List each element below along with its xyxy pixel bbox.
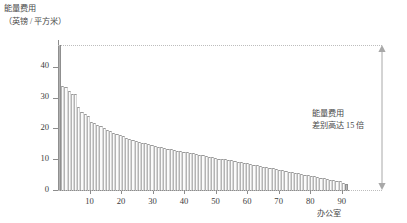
x-axis-tick-label: 70 bbox=[272, 196, 286, 206]
y-axis-tick-mark bbox=[53, 159, 58, 160]
y-axis-title: 能量费用 （英镑 / 平方米） bbox=[4, 3, 66, 28]
x-axis-title: 办公室 bbox=[317, 206, 341, 218]
range-annotation-line-1: 能量费用 bbox=[312, 108, 364, 120]
x-axis-tick-label: 20 bbox=[114, 196, 128, 206]
y-axis-tick-label: 10 bbox=[40, 153, 49, 163]
range-annotation: 能量费用 差别高达 15 倍 bbox=[312, 108, 364, 132]
y-axis-tick-mark bbox=[53, 67, 58, 68]
bar-series bbox=[58, 42, 348, 190]
y-axis-tick-mark bbox=[53, 98, 58, 99]
range-double-arrow-icon bbox=[375, 45, 389, 190]
y-axis-tick-label: 40 bbox=[40, 60, 49, 70]
x-axis-tick-label: 90 bbox=[335, 196, 349, 206]
x-axis-tick-label: 60 bbox=[240, 196, 254, 206]
y-axis-tick-label: 20 bbox=[40, 122, 49, 132]
y-axis-tick-label: 0 bbox=[45, 184, 49, 194]
plot-area bbox=[58, 42, 348, 190]
x-axis-tick-label: 40 bbox=[177, 196, 191, 206]
chart-container: 能量费用 （英镑 / 平方米） 010203040 10203040506070… bbox=[0, 0, 407, 223]
x-axis-tick-label: 10 bbox=[83, 196, 97, 206]
y-axis-title-line-2: （英镑 / 平方米） bbox=[4, 16, 66, 29]
y-axis-tick-label: 30 bbox=[40, 91, 49, 101]
range-annotation-line-2: 差别高达 15 倍 bbox=[312, 120, 364, 132]
x-axis-tick-label: 50 bbox=[209, 196, 223, 206]
y-axis-title-line-1: 能量费用 bbox=[4, 3, 66, 16]
x-axis-tick-label: 30 bbox=[146, 196, 160, 206]
x-axis-tick-label: 80 bbox=[303, 196, 317, 206]
range-leader-bottom bbox=[58, 190, 382, 191]
y-axis-tick-mark bbox=[53, 128, 58, 129]
range-leader-top bbox=[58, 45, 382, 46]
